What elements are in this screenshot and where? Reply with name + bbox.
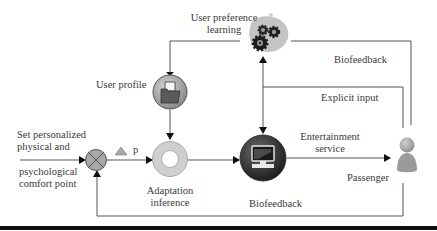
biofeedback-top-label: Biofeedback <box>334 54 387 66</box>
edge-profile-learning <box>166 41 240 76</box>
input-setpoint-label: Set personalized physical and <box>17 129 86 153</box>
ring-icon[interactable] <box>153 142 188 177</box>
label-line: learning <box>184 24 264 36</box>
folder-icon <box>153 75 187 109</box>
input-setpoint-label-cont: psychological comfort point <box>19 166 77 190</box>
edge-comparator-adaptation <box>107 156 153 164</box>
entertainment-service-label: Entertainment service <box>290 131 370 155</box>
label-line: Set personalized <box>17 129 86 141</box>
computer-monitor-icon[interactable] <box>240 135 286 181</box>
passenger-label: Passenger <box>347 172 389 184</box>
label-line: comfort point <box>19 178 77 190</box>
delta-p-label: p <box>133 144 138 156</box>
label-line: User preference <box>184 12 264 24</box>
label-line: inference <box>140 197 200 209</box>
edge-adaptation-computer <box>188 156 240 164</box>
person-icon[interactable] <box>397 138 417 173</box>
adaptation-inference-label: Adaptation inference <box>140 185 200 209</box>
label-line: service <box>290 143 370 155</box>
user-preference-learning-label: User preference learning <box>184 12 264 36</box>
explicit-input-label: Explicit input <box>321 92 378 104</box>
biofeedback-bottom-label: Biofeedback <box>249 198 302 210</box>
delta-triangle-icon <box>115 147 127 155</box>
edge-profile-adaptation <box>166 110 174 140</box>
label-line: psychological <box>19 166 77 178</box>
bottom-rule <box>0 226 437 230</box>
label-line: physical and <box>17 141 86 153</box>
edge-learning-computer <box>259 56 267 134</box>
edge-entertainment-service <box>287 154 391 162</box>
summing-junction-icon[interactable] <box>86 150 107 171</box>
user-profile-label: User profile <box>96 79 146 91</box>
label-line: Adaptation <box>140 185 200 197</box>
edge-input <box>20 156 86 164</box>
label-line: Entertainment <box>290 131 370 143</box>
